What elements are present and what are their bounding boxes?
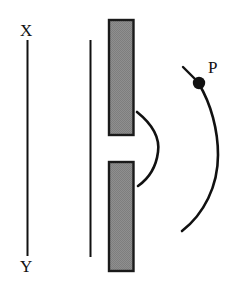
label-p: P xyxy=(208,58,217,77)
label-y: Y xyxy=(20,257,32,276)
barrier-upper-block xyxy=(109,20,134,135)
label-x: X xyxy=(20,21,32,40)
barrier-lower-block xyxy=(109,162,134,271)
diffraction-figure: X Y P xyxy=(0,0,237,283)
figure-canvas: X Y P xyxy=(0,0,237,283)
point-p-marker-dot xyxy=(193,77,205,89)
